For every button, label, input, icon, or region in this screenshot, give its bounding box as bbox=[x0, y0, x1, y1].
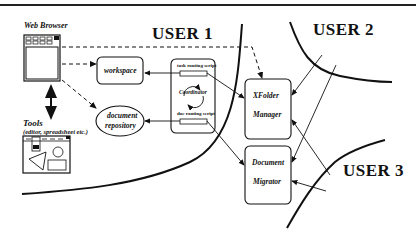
user1-label: USER 1 bbox=[152, 24, 213, 44]
tools-sublabel: (editor, spreadsheet etc.) bbox=[23, 128, 88, 135]
tools-label: Tools bbox=[23, 118, 43, 128]
browser-to-repository-dashed bbox=[62, 80, 96, 108]
doc-routing-script-label: doc routing script bbox=[177, 111, 215, 116]
workspace-label: workspace bbox=[104, 66, 137, 75]
coordinator-label: Coordinator bbox=[179, 89, 207, 95]
user2-label: USER 2 bbox=[313, 20, 374, 40]
task-routing-script-label: task routing script bbox=[177, 63, 216, 68]
user3-to-migrator bbox=[292, 181, 326, 191]
document-migrator-label-1: Document bbox=[252, 158, 284, 167]
doc-routing-script-field bbox=[180, 119, 207, 124]
web-browser-label: Web Browser bbox=[24, 21, 68, 30]
task-routing-script-field bbox=[180, 71, 207, 76]
web-browser-icon bbox=[24, 35, 60, 81]
document-migrator-label-2: Migrator bbox=[253, 177, 281, 186]
document-repository-label-1: document bbox=[107, 111, 137, 120]
xfolder-manager-label-2: Manager bbox=[253, 110, 281, 119]
user2-to-xfolder bbox=[292, 55, 322, 95]
document-migrator-node bbox=[245, 146, 291, 204]
document-repository-label-2: repository bbox=[105, 121, 136, 130]
user3-label: USER 3 bbox=[343, 161, 404, 181]
user2-to-migrator bbox=[292, 65, 336, 162]
xfolder-manager-label-1: XFolder bbox=[253, 91, 279, 100]
xfolder-manager-node bbox=[245, 79, 291, 139]
tools-icon bbox=[23, 136, 70, 173]
user3-to-xfolder bbox=[292, 120, 330, 175]
